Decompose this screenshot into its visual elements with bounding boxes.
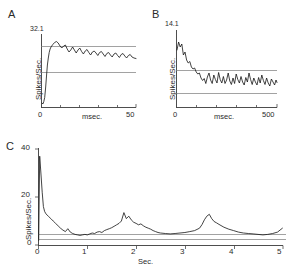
panel-c: C Spikes/Sec. Sec. 40 20 0 0 1 2 3 4 5	[0, 135, 288, 275]
panel-b-plot	[144, 0, 288, 135]
figure-container: A 32.1 Spikes/Sec. msec. 0 50 B 14.1 Spi…	[0, 0, 288, 275]
panel-b: B 14.1 Spikes/Sec. msec. 0 500	[144, 0, 288, 135]
panel-a-plot	[0, 0, 144, 135]
panel-c-plot	[0, 135, 288, 275]
panel-a: A 32.1 Spikes/Sec. msec. 0 50	[0, 0, 144, 135]
